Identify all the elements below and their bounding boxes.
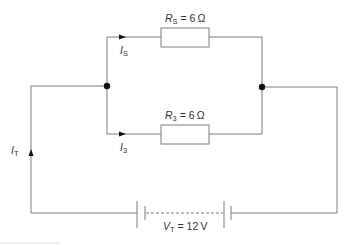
total-current-label: IT — [11, 145, 19, 158]
resistor-top-label: RS = 6 Ω — [165, 13, 205, 26]
supply-voltage-label: VT = 12 V — [163, 221, 207, 234]
resistor-bottom — [161, 125, 209, 144]
current-top-label: IS — [120, 45, 128, 58]
current-bottom-label: I3 — [120, 142, 127, 155]
junction-left-dot — [104, 83, 110, 89]
arrow-right-icon-bottom-branch — [119, 132, 126, 137]
arrow-right-icon-top-branch — [119, 35, 126, 40]
resistor-top — [161, 28, 209, 47]
junction-right-dot — [259, 84, 265, 90]
wire-left-loop — [31, 86, 107, 213]
resistor-bottom-label: R3 = 6 Ω — [165, 110, 205, 123]
wire-right-loop — [262, 87, 337, 213]
arrow-up-icon-total-current — [29, 149, 34, 156]
